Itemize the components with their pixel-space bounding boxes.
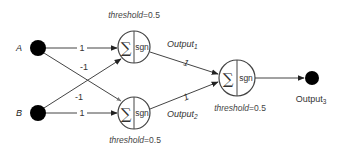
neuron-1-threshold: threshold=0.5 <box>108 10 160 20</box>
output-3-label: Output3 <box>296 94 327 105</box>
neuron-3-sum-icon: ∑ <box>223 70 234 88</box>
neuron-3-threshold: threshold=0.5 <box>214 103 266 113</box>
neuron-3-activation: sgn <box>239 73 253 83</box>
input-node-a: A <box>15 40 46 56</box>
input-a-dot <box>30 40 46 56</box>
neuron-1-activation: sgn <box>135 42 149 52</box>
neuron-2: ∑ sgn Output2 threshold=0.5 <box>109 97 198 145</box>
weight-a-n1: 1 <box>79 43 84 53</box>
input-b-dot <box>30 105 46 121</box>
neuron-2-threshold: threshold=0.5 <box>109 135 161 145</box>
neuron-2-output-label: Output2 <box>167 109 198 120</box>
weight-a-n2: -1 <box>80 62 88 72</box>
xor-network-diagram: 1 -1 -1 1 1 1 A B threshold=0.5 ∑ sgn Ou… <box>0 0 339 158</box>
neuron-2-sum-icon: ∑ <box>121 105 132 123</box>
weight-n1-n3: 1 <box>182 57 190 68</box>
weight-b-n1: -1 <box>75 92 83 102</box>
output-dot <box>305 71 319 85</box>
input-a-label: A <box>15 43 22 53</box>
neuron-1-output-label: Output1 <box>167 39 198 50</box>
input-b-label: B <box>16 108 22 118</box>
weight-b-n2: 1 <box>79 108 84 118</box>
output-node: Output3 <box>296 71 327 105</box>
neuron-2-activation: sgn <box>135 108 149 118</box>
neuron-3: ∑ sgn threshold=0.5 <box>214 60 266 113</box>
neuron-1-sum-icon: ∑ <box>121 39 132 57</box>
input-node-b: B <box>16 105 46 121</box>
neuron-1: threshold=0.5 ∑ sgn Output1 <box>108 10 198 63</box>
